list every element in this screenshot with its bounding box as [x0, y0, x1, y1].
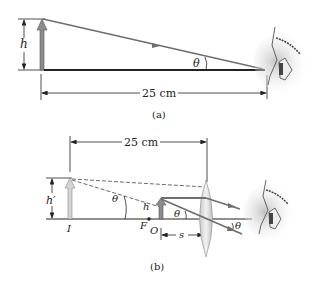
- angle-label-image: θ: [112, 193, 118, 204]
- angle-arc-object: [185, 211, 186, 219]
- object-height-label: h: [143, 201, 149, 212]
- height-label: h: [20, 37, 28, 51]
- angle-arc-a: [205, 57, 207, 70]
- object-distance-label: s: [179, 229, 184, 240]
- virtual-image-arrow: [65, 178, 75, 219]
- eye-icon-b: [244, 180, 296, 240]
- distance-label-a: 25 cm: [142, 87, 177, 100]
- object-arrow: [37, 19, 47, 70]
- focal-point-label: F: [139, 220, 148, 231]
- panel-a: h θ 25 cm (a): [18, 19, 310, 120]
- eye-icon: [254, 27, 310, 92]
- diagram-canvas: h θ 25 cm (a) 25 cm: [0, 0, 318, 283]
- focal-point: [147, 217, 151, 221]
- angle-arc-exit: [232, 223, 233, 229]
- angle-label-a: θ: [193, 57, 200, 70]
- panel-b: 25 cm h′ I θ F h O s: [46, 136, 296, 272]
- object-point-label: O: [150, 225, 158, 236]
- angle-label-exit: θ: [235, 220, 241, 231]
- image-height-label: h′: [46, 194, 56, 207]
- distance-label-b: 25 cm: [124, 136, 159, 149]
- image-point-label: I: [66, 223, 72, 234]
- caption-b: (b): [150, 261, 164, 272]
- angle-label-object: θ: [174, 208, 180, 219]
- angle-arc-image: [124, 196, 126, 219]
- magnifier-diagram: h θ 25 cm (a) 25 cm: [0, 0, 318, 283]
- caption-a: (a): [152, 109, 166, 120]
